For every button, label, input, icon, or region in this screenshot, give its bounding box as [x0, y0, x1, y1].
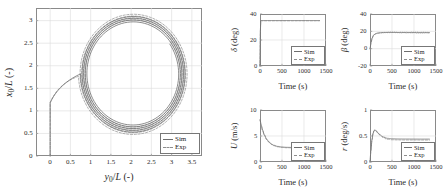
tick-label: 1500	[320, 164, 333, 171]
tick-label: 40	[360, 11, 367, 18]
drift-angle-legend: Sim Exp	[401, 46, 435, 65]
legend-line-exp-icon	[294, 155, 302, 156]
tick-label: 0	[29, 153, 33, 160]
yaw-rate-x-axis-label: Time (s)	[389, 178, 418, 187]
legend-label-exp: Exp	[414, 56, 424, 63]
tick-label: 0.5	[66, 159, 75, 166]
tick-label: 500	[277, 68, 287, 75]
tick-label: 500	[387, 164, 397, 171]
legend-line-sim-icon	[294, 147, 302, 148]
tick-label: 0	[369, 68, 372, 75]
tick-label: 1000	[408, 68, 421, 75]
tick-label: 3	[29, 17, 33, 24]
tick-label: 0	[259, 164, 262, 171]
yaw-rate-panel: 050010001500 00.51 Time (s) r (deg/s) Si…	[336, 100, 442, 196]
trajectory-y-axis-label: x0/L (-)	[4, 68, 15, 97]
tick-label: 0	[364, 45, 367, 52]
tick-label: 1.5	[106, 159, 115, 166]
speed-y-axis-label: U (m/s)	[230, 123, 239, 149]
trajectory-panel: 00.511.522.533.5 00.511.522.53 y0/L (-) …	[0, 0, 221, 196]
trajectory-plot-area	[0, 0, 221, 196]
tick-label: 1.5	[24, 85, 33, 92]
legend-label-exp: Exp	[175, 144, 186, 151]
speed-x-axis-label: Time (s)	[279, 178, 308, 187]
rudder-angle-legend: Sim Exp	[291, 46, 325, 65]
legend-label-exp: Exp	[304, 152, 314, 159]
tick-label: 0	[48, 159, 52, 166]
legend-row-exp: Exp	[163, 144, 197, 153]
legend-line-sim-icon	[163, 139, 173, 140]
tick-label: 1	[364, 107, 367, 114]
legend-line-exp-icon	[404, 155, 412, 156]
tick-label: 1	[29, 107, 33, 114]
drift-angle-y-axis-label: β (deg)	[340, 28, 349, 52]
tick-label: 1000	[408, 164, 421, 171]
tick-label: 20	[360, 28, 367, 35]
legend-line-exp-icon	[294, 59, 302, 60]
tick-label: 2	[129, 159, 133, 166]
tick-label: 2.5	[24, 40, 33, 47]
legend-row-exp: Exp	[294, 152, 322, 160]
legend-line-sim-icon	[294, 51, 302, 52]
tick-label: -20	[358, 63, 367, 70]
tick-label: 5	[254, 133, 257, 140]
trajectory-legend: Sim Exp	[160, 133, 200, 154]
speed-panel: 050010001500 0510 Time (s) U (m/s) Sim E…	[228, 100, 332, 196]
trajectory-x-axis-label: y0/L (-)	[105, 172, 134, 183]
tick-label: 1500	[430, 164, 443, 171]
yaw-rate-y-axis-label: r (deg/s)	[340, 121, 349, 150]
tick-label: 0	[259, 68, 262, 75]
legend-label-exp: Exp	[414, 152, 424, 159]
legend-line-exp-icon	[163, 147, 173, 148]
legend-label-sim: Sim	[175, 136, 186, 143]
tick-label: 2.5	[147, 159, 156, 166]
tick-label: 500	[387, 68, 397, 75]
legend-row-exp: Exp	[404, 56, 432, 64]
tick-label: 1000	[298, 164, 311, 171]
drift-angle-panel: 050010001500 -2002040 Time (s) β (deg) S…	[336, 2, 442, 96]
tick-label: 0	[364, 159, 367, 166]
speed-legend: Sim Exp	[291, 142, 325, 161]
tick-label: 0.5	[359, 133, 367, 140]
tick-label: 1	[89, 159, 93, 166]
tick-label: 3.5	[187, 159, 196, 166]
tick-label: 3	[170, 159, 174, 166]
tick-label: 1500	[430, 68, 443, 75]
legend-row-sim: Sim	[163, 135, 197, 144]
yaw-rate-legend: Sim Exp	[401, 142, 435, 161]
rudder-angle-x-axis-label: Time (s)	[279, 82, 308, 91]
legend-line-sim-icon	[404, 51, 412, 52]
rudder-angle-panel: 050010001500 02040 Time (s) δ (deg) Sim …	[228, 2, 332, 96]
tick-label: 1500	[320, 68, 333, 75]
legend-row-exp: Exp	[404, 152, 432, 160]
tick-label: 10	[250, 107, 257, 114]
rudder-angle-y-axis-label: δ (deg)	[230, 28, 239, 52]
tick-label: 0	[369, 164, 372, 171]
tick-label: 1000	[298, 68, 311, 75]
legend-line-sim-icon	[404, 147, 412, 148]
legend-label-exp: Exp	[304, 56, 314, 63]
tick-label: 20	[250, 37, 257, 44]
tick-label: 40	[250, 11, 257, 18]
tick-label: 2	[29, 62, 33, 69]
legend-row-exp: Exp	[294, 56, 322, 64]
tick-label: 500	[277, 164, 287, 171]
legend-line-exp-icon	[404, 59, 412, 60]
tick-label: 0.5	[24, 130, 33, 137]
tick-label: 0	[254, 63, 257, 70]
tick-label: 0	[254, 159, 257, 166]
drift-angle-x-axis-label: Time (s)	[389, 82, 418, 91]
